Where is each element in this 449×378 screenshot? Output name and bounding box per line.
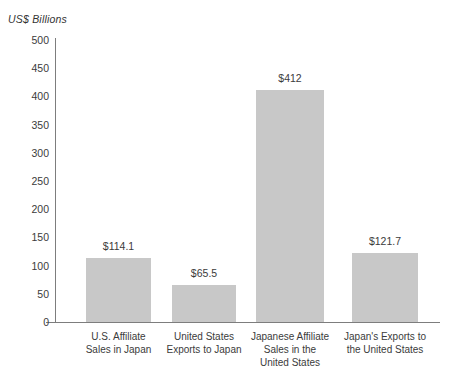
- bar: [86, 258, 151, 322]
- x-axis-category-label: Japan's Exports to the United States: [331, 330, 439, 356]
- y-axis-tick-150: 150: [31, 231, 49, 243]
- bar-value-label: $412: [278, 72, 301, 84]
- y-axis-tick-300: 300: [31, 147, 49, 159]
- x-axis-category-label: Japanese Affiliate Sales in the United S…: [235, 330, 345, 369]
- bar: [256, 90, 324, 322]
- y-axis-tick-labels: 500450400350300250200150100500: [8, 0, 49, 378]
- y-axis-tick-400: 400: [31, 90, 49, 102]
- y-axis-tick-100: 100: [31, 260, 49, 272]
- bar-value-label: $114.1: [103, 240, 134, 252]
- x-axis-line: [46, 322, 440, 323]
- y-axis-tick-450: 450: [31, 62, 49, 74]
- bar-chart: US$ Billions 500450400350300250200150100…: [0, 0, 449, 378]
- y-axis-tick-250: 250: [31, 175, 49, 187]
- y-axis-tick-0: 0: [43, 316, 49, 328]
- bar: [352, 253, 418, 322]
- bar-value-label: $65.5: [191, 267, 217, 279]
- plot-area: 500450400350300250200150100500 $114.1$65…: [0, 0, 449, 378]
- y-axis-tick-50: 50: [37, 288, 49, 300]
- y-axis-tick-350: 350: [31, 119, 49, 131]
- bar: [172, 285, 236, 322]
- y-axis-line: [55, 38, 56, 323]
- y-axis-tick-500: 500: [31, 34, 49, 46]
- y-axis-tick-200: 200: [31, 203, 49, 215]
- bar-value-label: $121.7: [369, 235, 401, 247]
